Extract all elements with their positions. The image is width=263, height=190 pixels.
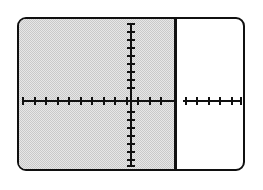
x-axis-tick xyxy=(45,97,47,105)
x-axis-tick xyxy=(34,97,36,105)
y-axis-tick xyxy=(127,71,135,73)
x-axis-tick xyxy=(196,97,198,105)
x-axis-tick xyxy=(57,97,59,105)
x-axis-tick xyxy=(208,97,210,105)
y-axis-tick xyxy=(127,111,135,113)
x-axis-tick xyxy=(231,97,233,105)
y-axis-tick xyxy=(127,165,135,167)
vertical-boundary-line xyxy=(174,19,177,169)
graph-relation-label: x <= 4 xyxy=(0,0,1,1)
y-axis-tick xyxy=(127,31,135,33)
y-axis-tick xyxy=(127,47,135,49)
y-axis-tick xyxy=(127,79,135,81)
x-axis-tick xyxy=(240,97,242,105)
x-axis-tick xyxy=(185,97,187,105)
coordinate-plane-figure: x <= 4 xyxy=(0,0,263,190)
y-axis-tick xyxy=(127,159,135,161)
y-axis-tick xyxy=(127,55,135,57)
x-axis-tick xyxy=(219,97,221,105)
x-axis-tick xyxy=(103,97,105,105)
x-axis-tick xyxy=(22,97,24,105)
plot-frame xyxy=(17,17,245,171)
x-axis-tick xyxy=(68,97,70,105)
x-axis-tick xyxy=(80,97,82,105)
shaded-solution-region xyxy=(19,19,174,169)
x-axis-tick xyxy=(160,97,162,105)
y-axis-tick xyxy=(127,119,135,121)
y-axis-tick xyxy=(127,39,135,41)
x-axis-tick xyxy=(149,97,151,105)
x-axis-tick xyxy=(114,97,116,105)
x-axis-tick xyxy=(91,97,93,105)
y-axis-tick xyxy=(127,135,135,137)
x-axis-tick xyxy=(137,97,139,105)
y-axis-tick xyxy=(127,151,135,153)
y-axis-tick xyxy=(127,143,135,145)
y-axis-tick xyxy=(127,127,135,129)
y-axis-tick xyxy=(127,63,135,65)
y-axis-tick xyxy=(127,23,135,25)
y-axis-tick xyxy=(127,87,135,89)
x-axis-tick xyxy=(126,97,128,105)
